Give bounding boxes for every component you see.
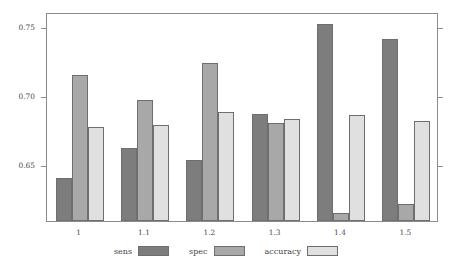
y-axis-tick-label: 0.65 <box>5 161 35 170</box>
bar <box>186 160 202 221</box>
bar <box>317 24 333 221</box>
legend-entry: spec <box>189 246 244 256</box>
bar <box>414 121 430 221</box>
bar <box>268 123 284 221</box>
bar <box>72 75 88 221</box>
x-axis-tick-label: 1.3 <box>269 228 281 237</box>
legend-swatch <box>307 246 338 256</box>
y-axis-tick-label: 0.75 <box>5 23 35 32</box>
bar <box>252 114 268 221</box>
x-axis-tick-label: 1.2 <box>203 228 215 237</box>
bar <box>349 115 365 221</box>
legend-label: spec <box>189 247 207 256</box>
legend-swatch <box>214 246 245 256</box>
bar <box>398 204 414 221</box>
bar <box>121 148 137 221</box>
bar <box>88 127 104 221</box>
x-axis-tick-label: 1 <box>76 228 81 237</box>
bar <box>153 125 169 221</box>
legend-entry: accuracy <box>265 246 338 256</box>
bar <box>382 39 398 221</box>
chart-legend: sensspecaccuracy <box>0 243 452 259</box>
bar <box>56 178 72 221</box>
y-axis-tick-right <box>438 28 443 29</box>
y-axis-tick-label: 0.70 <box>5 92 35 101</box>
bar <box>333 213 349 221</box>
bar <box>137 100 153 221</box>
y-axis-tick-right <box>438 97 443 98</box>
legend-label: accuracy <box>265 247 301 256</box>
y-axis-tick-right <box>438 166 443 167</box>
x-axis-tick-label: 1.5 <box>399 228 411 237</box>
x-axis-tick-label: 1.1 <box>138 228 150 237</box>
plot-area <box>46 13 438 222</box>
bar-chart: 0.750.700.65 11.11.21.31.41.5 sensspecac… <box>0 0 452 267</box>
bar <box>202 63 218 221</box>
legend-swatch <box>138 246 169 256</box>
legend-label: sens <box>114 247 132 256</box>
x-axis-tick-label: 1.4 <box>334 228 346 237</box>
bar <box>218 112 234 221</box>
bar <box>284 119 300 221</box>
legend-entry: sens <box>114 246 169 256</box>
